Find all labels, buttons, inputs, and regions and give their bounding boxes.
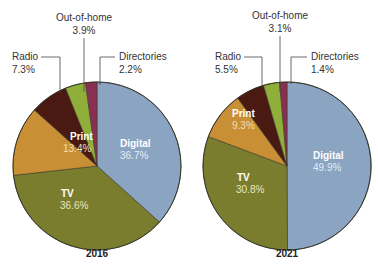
directories-leader [291,57,307,84]
print-label: Print [232,108,255,119]
print-pct: 13.4% [63,143,91,154]
tv-pct: 30.8% [236,184,264,195]
radio-pct: 7.3% [12,64,35,75]
print-label: Print [70,131,93,142]
ooh-label: Out-of-home [56,12,113,23]
year-2016: 2016 [86,248,109,259]
directories-label: Directories [311,51,359,62]
directories-leader [100,57,115,85]
directories-pct: 1.4% [311,64,334,75]
ooh-label: Out-of-home [252,10,309,21]
tv-label: TV [61,188,74,199]
print-pct: 9.3% [232,120,255,131]
radio-leader [244,57,262,85]
radio-label: Radio [12,51,39,62]
radio-pct: 5.5% [215,64,238,75]
tv-label: TV [237,172,250,183]
radio-label: Radio [215,51,242,62]
digital-label: Digital [120,138,151,149]
ooh-pct: 3.9% [73,25,96,36]
directories-pct: 2.2% [119,64,142,75]
digital-label: Digital [313,150,344,161]
digital-pct: 36.7% [120,150,148,161]
year-2021: 2021 [276,248,299,259]
ooh-pct: 3.1% [269,23,292,34]
radio-leader [41,57,60,93]
pie-2021 [203,82,371,250]
pie-charts: Print 13.4% Digital 36.7% TV 36.6% Radio… [0,0,378,269]
pie-2016 [13,82,181,250]
directories-label: Directories [119,51,167,62]
tv-pct: 36.6% [60,200,88,211]
digital-pct: 49.9% [313,162,341,173]
